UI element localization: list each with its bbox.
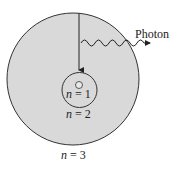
photon-label: Photon (135, 27, 169, 41)
label-n3: n = 3 (61, 148, 86, 162)
label-n2: n = 2 (66, 107, 91, 121)
bohr-atom-diagram: Photon n = 1 n = 2 n = 3 (0, 0, 171, 175)
label-n1: n = 1 (66, 87, 91, 101)
